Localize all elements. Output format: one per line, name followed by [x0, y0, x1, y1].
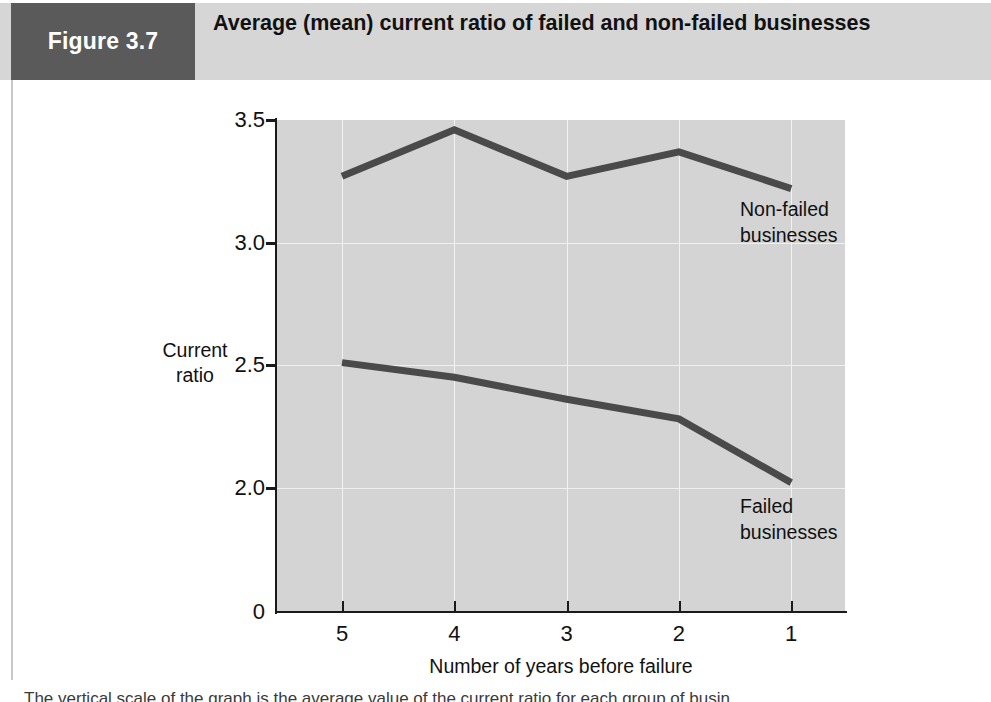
y-axis-tick	[266, 364, 277, 367]
x-axis-tick-label: 3	[547, 621, 587, 647]
gridline-vertical	[679, 120, 680, 612]
series-label-non-failed: Non-failed businesses	[740, 197, 838, 248]
series-label-non-failed-line-1: Non-failed	[740, 197, 838, 223]
y-axis-tick	[266, 487, 277, 490]
y-axis-tick-label: 2.0	[205, 475, 265, 501]
y-axis-tick	[266, 119, 277, 122]
series-label-failed-line-1: Failed	[740, 494, 838, 520]
x-axis-tick-label: 2	[659, 621, 699, 647]
gridline-vertical	[342, 120, 343, 612]
gridline-vertical	[567, 120, 568, 612]
y-axis-tick	[266, 242, 277, 245]
gridline-vertical	[454, 120, 455, 612]
series-label-failed: Failed businesses	[740, 494, 838, 545]
figure-caption: The vertical scale of the graph is the a…	[24, 689, 974, 702]
y-axis-title-line-1: Current	[140, 338, 250, 363]
y-axis-tick-label: 3.0	[205, 230, 265, 256]
x-axis-tick	[679, 601, 681, 613]
series-label-non-failed-line-2: businesses	[740, 223, 838, 249]
y-axis-title-line-2: ratio	[140, 363, 250, 388]
y-axis-title: Current ratio	[140, 338, 250, 388]
x-axis-title: Number of years before failure	[277, 655, 845, 678]
chart-container: 3.53.02.52.00 54321 Current ratio Number…	[0, 0, 991, 702]
x-axis-tick-label: 1	[771, 621, 811, 647]
x-axis-tick	[567, 601, 569, 613]
gridline-horizontal	[277, 365, 845, 366]
y-axis-tick-label: 3.5	[205, 107, 265, 133]
x-axis-tick	[342, 601, 344, 613]
series-label-failed-line-2: businesses	[740, 520, 838, 546]
x-axis-line	[275, 611, 847, 613]
x-axis-tick-label: 5	[322, 621, 362, 647]
gridline-horizontal	[277, 488, 845, 489]
y-axis-tick-label: 0	[205, 599, 265, 625]
x-axis-tick-label: 4	[434, 621, 474, 647]
x-axis-tick	[454, 601, 456, 613]
x-axis-tick	[791, 601, 793, 613]
